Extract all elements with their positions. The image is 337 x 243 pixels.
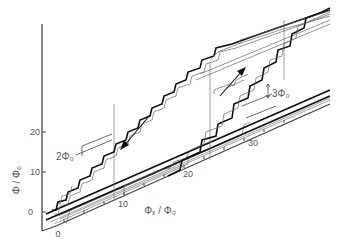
left-step-bracket	[76, 134, 112, 156]
y-tick-label-10: 10	[30, 167, 40, 177]
x-tick-label-20: 20	[183, 169, 193, 179]
x-axis-label: Φₓ / Φ₀	[144, 205, 176, 216]
baseline-thick	[46, 90, 330, 220]
x-tick-label-30: 30	[248, 138, 258, 148]
arrow-down-left-icon	[120, 115, 150, 150]
annotation-2phi0: 2Φ₀	[56, 151, 74, 162]
y-tick-label-0: 0	[28, 207, 33, 217]
x-tick-label-0: 0	[55, 229, 60, 239]
arrow-up-right-icon	[220, 67, 246, 96]
baseline-traces	[50, 98, 330, 224]
depth-axis	[42, 226, 56, 231]
right-step-bracket	[242, 84, 276, 118]
flux-hysteresis-plot: 0 10 20 Φ / Φ₀ 0 10 20 30 Φₓ / Φ₀ 2Φ₀ 3Φ…	[0, 0, 337, 243]
ascending-staircase-shadows	[120, 12, 330, 198]
y-axis-label: Φ / Φ₀	[11, 166, 22, 194]
y-tick-label-20: 20	[30, 127, 40, 137]
annotation-3phi0: 3Φ₀	[272, 88, 290, 99]
descending-staircase-shadows	[54, 10, 330, 214]
descending-staircase	[52, 10, 330, 210]
x-axis	[56, 104, 330, 226]
x-tick-label-10: 10	[118, 199, 128, 209]
